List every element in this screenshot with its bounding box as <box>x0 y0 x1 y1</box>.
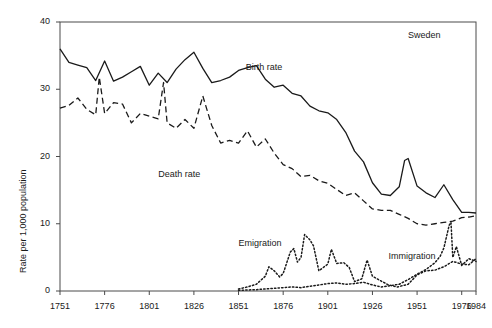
x-axis-tick-1826: 1826 <box>177 301 211 311</box>
series-label-emigration: Emigration <box>239 238 282 248</box>
y-axis-tick-30: 30 <box>28 83 50 93</box>
series-label-immigration: Immigration <box>389 251 436 261</box>
x-axis-tick-1776: 1776 <box>88 301 122 311</box>
x-axis-tick-1984: 1984 <box>459 301 492 311</box>
y-axis-title: Rate per 1,000 population <box>18 169 28 273</box>
chart-plot-svg <box>0 0 492 328</box>
x-axis-tick-1876: 1876 <box>266 301 300 311</box>
y-axis-tick-10: 10 <box>28 218 50 228</box>
y-axis-tick-20: 20 <box>28 151 50 161</box>
x-axis-tick-1751: 1751 <box>43 301 77 311</box>
chart-container: Rate per 1,000 population 010203040 1751… <box>0 0 492 328</box>
x-axis-tick-1801: 1801 <box>132 301 166 311</box>
x-axis-tick-1951: 1951 <box>400 301 434 311</box>
y-axis-tick-40: 40 <box>28 16 50 26</box>
x-axis-tick-1926: 1926 <box>355 301 389 311</box>
x-axis-tick-1901: 1901 <box>311 301 345 311</box>
series-label-death-rate: Death rate <box>158 169 200 179</box>
series-line-birth-rate <box>60 49 476 213</box>
series-line-death-rate <box>60 77 476 225</box>
country-annotation-sweden: Sweden <box>408 30 441 40</box>
x-axis-tick-1851: 1851 <box>222 301 256 311</box>
y-axis-tick-0: 0 <box>28 285 50 295</box>
series-label-birth-rate: Birth rate <box>246 62 283 72</box>
